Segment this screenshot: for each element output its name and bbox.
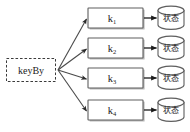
state-node-4[interactable]: 状态 (158, 98, 184, 121)
keyby-fanout-group (58, 19, 87, 111)
key-subscript-2: 2 (113, 48, 116, 55)
keyby-to-key-arrow-2 (58, 49, 87, 70)
branch-row-1: k1 状态 (88, 6, 184, 30)
branch-row-3: k3 状态 (88, 66, 184, 90)
keyby-node[interactable]: keyBy (7, 59, 56, 82)
state-node-3[interactable]: 状态 (158, 66, 184, 89)
key-subscript-1: 1 (113, 18, 116, 25)
keyby-to-key-arrow-4 (58, 70, 87, 111)
keyby-to-key-arrow-3 (58, 70, 87, 79)
keyby-state-diagram: keyBy k1 状态 k2 (0, 0, 190, 132)
state-label-3: 状态 (163, 73, 179, 83)
state-label-2: 状态 (163, 43, 179, 53)
state-node-1[interactable]: 状态 (158, 6, 184, 29)
keyby-to-key-arrow-1 (58, 19, 87, 70)
diagram-canvas: keyBy k1 状态 k2 (0, 0, 190, 132)
state-node-2[interactable]: 状态 (158, 36, 184, 59)
branch-row-2: k2 状态 (88, 36, 184, 60)
state-label-1: 状态 (163, 13, 179, 23)
keyby-label: keyBy (18, 65, 44, 76)
branch-row-4: k4 状态 (88, 98, 184, 122)
state-label-4: 状态 (163, 105, 179, 115)
key-subscript-3: 3 (113, 78, 116, 85)
